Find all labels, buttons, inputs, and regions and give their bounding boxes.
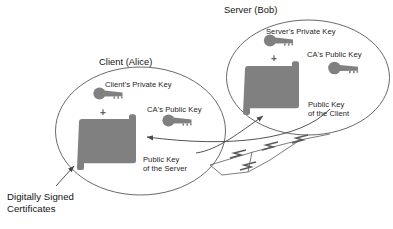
client-certificate-label-line2: of the Server [143, 164, 187, 173]
server-certificate-icon [243, 61, 299, 115]
client-ca-public-key-label: CA's Public Key [147, 105, 202, 114]
client-certificate-label-line1: Public Key [143, 155, 179, 164]
client-certificate-icon [77, 114, 136, 170]
digitally-signed-annotation-line2: Certificates [7, 203, 56, 215]
server-group-title: Server (Bob) [224, 5, 277, 16]
digitally-signed-annotation-line1: Digitally Signed [7, 191, 74, 203]
server-ca-public-key-label: CA's Public Key [307, 50, 362, 59]
server-certificate-label-line1: Public Key [308, 100, 344, 109]
client-ca-public-key-icon [162, 114, 191, 126]
client-group-title: Client (Alice) [99, 57, 152, 68]
diagram-canvas: Server (Bob) Server's Private Key + CA's… [0, 0, 393, 229]
arrow-client-to-server [196, 116, 263, 153]
server-certificate-label-line2: of the Client [308, 109, 349, 118]
callout-arrow-digitally-signed [56, 166, 74, 186]
client-private-key-label: Client's Private Key [105, 80, 172, 89]
server-ca-public-key-icon [328, 62, 358, 75]
server-plus-symbol: + [271, 54, 277, 64]
client-plus-symbol: + [100, 108, 106, 118]
server-private-key-label: Server's Private Key [266, 27, 336, 36]
